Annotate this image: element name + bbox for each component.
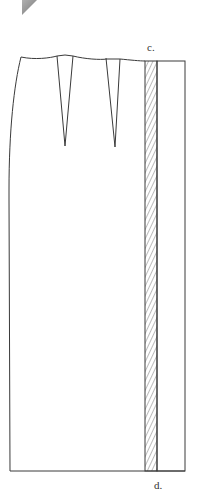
right-extension-panel: [157, 61, 185, 471]
dart-1: [57, 56, 73, 146]
hatched-extension-strip: [145, 61, 157, 471]
side-seam: [9, 57, 21, 471]
skirt-pattern-svg: [0, 0, 200, 497]
pattern-diagram: c. d.: [0, 0, 200, 497]
corner-fold-icon: [22, 0, 37, 15]
waistline: [21, 55, 145, 61]
dart-2: [106, 58, 120, 147]
point-label-c: c.: [147, 41, 155, 53]
point-label-d: d.: [154, 479, 162, 491]
